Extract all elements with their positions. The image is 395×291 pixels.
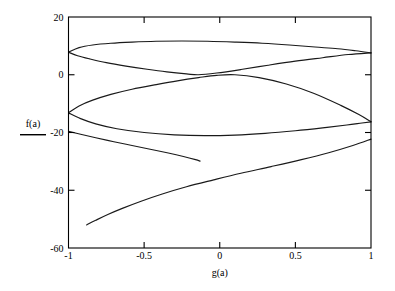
y-tick-label--40: -40 (50, 185, 63, 196)
axis-frame (69, 17, 372, 248)
curve-upper-lens-top (69, 41, 372, 53)
x-tick-label--1: -1 (64, 250, 72, 261)
plot-border (69, 17, 372, 248)
chart-figure: -1-0.500.51200-20-40-60 f(a) g(a) (0, 0, 395, 291)
x-tick-label-1: 1 (369, 250, 374, 261)
y-axis-label: f(a) (20, 118, 46, 135)
tick-marks (69, 17, 372, 248)
curve-lower-lens-bottom (69, 113, 372, 136)
x-tick-label--0.5: -0.5 (136, 250, 152, 261)
tick-labels: -1-0.500.51200-20-40-60 (50, 12, 373, 262)
curve-lower-lens-top (69, 75, 372, 122)
x-axis-label-text: g(a) (212, 267, 228, 279)
x-tick-label-0: 0 (217, 250, 222, 261)
chart-svg: -1-0.500.51200-20-40-60 f(a) g(a) (0, 0, 395, 291)
y-tick-label--60: -60 (50, 243, 63, 254)
curve-open-branch-upper (69, 131, 201, 161)
y-tick-label--20: -20 (50, 127, 63, 138)
curve-upper-lens-bottom (69, 52, 372, 75)
y-axis-label-text: f(a) (26, 118, 40, 130)
curve-open-branch-lower (87, 139, 371, 225)
y-tick-label-20: 20 (54, 12, 64, 23)
curve-group (69, 41, 372, 225)
y-tick-label-0: 0 (59, 69, 64, 80)
x-tick-label-0.5: 0.5 (289, 250, 302, 261)
